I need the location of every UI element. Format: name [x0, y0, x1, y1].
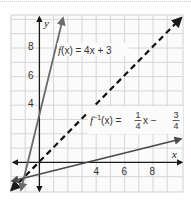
x-tick-4: 4 [94, 166, 100, 177]
svg-text:f(x) = 4x + 3: f(x) = 4x + 3 [58, 44, 112, 56]
y-tick-4: 4 [28, 98, 34, 109]
y-axis-label: y [43, 17, 49, 29]
y-tick-8: 8 [28, 41, 34, 52]
finv-equation-mid: (x) = [101, 115, 121, 126]
finv-frac1-num: 1 [136, 110, 141, 120]
finv-superscript: −1 [93, 114, 101, 121]
x-tick-8: 8 [150, 166, 156, 177]
finv-frac1-den: 4 [136, 121, 141, 131]
f-inverse-equation-label: f−1(x) = 1 4 x − 3 4 [88, 106, 183, 134]
f-equation-rest: (x) = 4x + 3 [61, 45, 112, 56]
finv-x-minus: x − [143, 115, 157, 126]
coordinate-graph: y x 8 6 4 4 6 8 f(x) = 4x + 3 f−1(x) = 1… [0, 0, 191, 208]
finv-frac2-den: 4 [174, 121, 179, 131]
x-axis-label: x [171, 148, 177, 160]
x-tick-6: 6 [122, 166, 128, 177]
f-equation-label: f(x) = 4x + 3 [57, 43, 129, 56]
y-tick-6: 6 [28, 70, 34, 81]
finv-frac2-num: 3 [174, 110, 179, 120]
